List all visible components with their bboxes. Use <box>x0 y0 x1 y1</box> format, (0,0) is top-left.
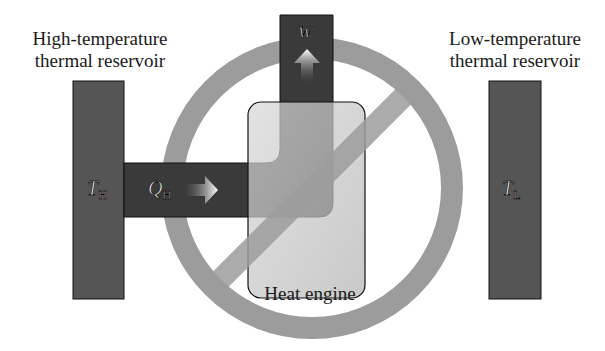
heat-engine-label: Heat engine <box>230 283 390 305</box>
work-out-symbol: W <box>298 23 314 42</box>
